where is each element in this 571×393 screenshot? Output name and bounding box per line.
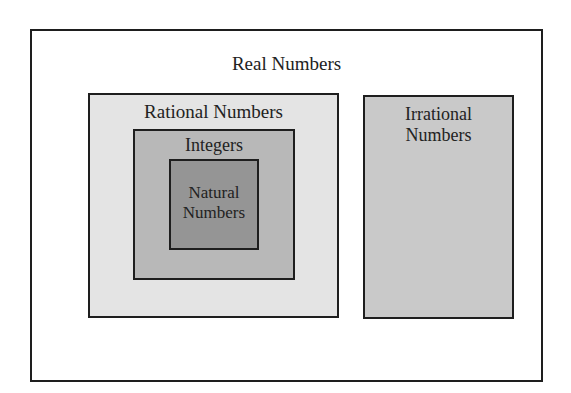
real-numbers-label: Real Numbers [32,53,541,75]
irrational-numbers-label-line1: Irrational [365,104,512,125]
rational-numbers-label: Rational Numbers [90,101,337,123]
natural-numbers-label-line2: Numbers [171,203,257,223]
integers-label: Integers [135,135,293,156]
natural-numbers-label: Natural Numbers [171,183,257,222]
irrational-numbers-label-line2: Numbers [365,125,512,146]
irrational-numbers-label: Irrational Numbers [365,104,512,145]
natural-numbers-label-line1: Natural [171,183,257,203]
irrational-numbers-set: Irrational Numbers [363,95,514,319]
natural-numbers-set: Natural Numbers [169,159,259,250]
